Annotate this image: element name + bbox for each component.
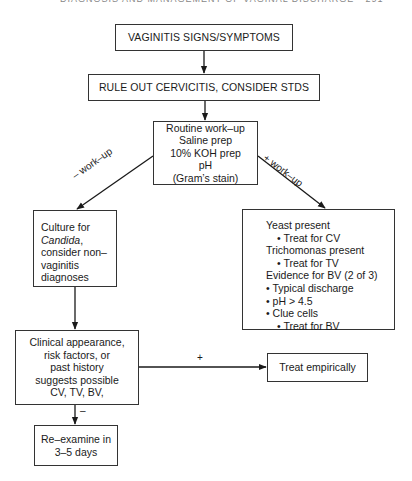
- clinical-line: past history: [50, 361, 104, 374]
- routine-line: pH: [199, 159, 212, 172]
- plus-label: +: [197, 352, 203, 363]
- routine-line: (Gram’s stain): [173, 172, 239, 185]
- node-vaginitis-signs: VAGINITIS SIGNS/SYMPTOMS: [115, 24, 293, 51]
- routine-line: Saline prep: [179, 134, 232, 147]
- culture-line: diagnoses: [41, 271, 116, 284]
- findings-line: Trichomonas present: [266, 244, 394, 257]
- treat-empirically-text: Treat empirically: [279, 361, 356, 374]
- findings-line: • Typical discharge: [266, 282, 394, 295]
- node-findings: Yeast present • Treat for CV Trichomonas…: [242, 209, 395, 330]
- clinical-line: suggests possible: [35, 374, 118, 387]
- findings-line: • Treat for BV: [266, 320, 394, 333]
- culture-line-candida: Candida,: [41, 234, 116, 247]
- culture-line: consider non–: [41, 246, 116, 259]
- reexamine-line: Re–examine in: [41, 433, 111, 446]
- reexamine-line: 3–5 days: [55, 446, 98, 459]
- node-treat-empirically: Treat empirically: [267, 353, 368, 382]
- node-rule-out-text: RULE OUT CERVICITIS, CONSIDER STDS: [99, 81, 309, 94]
- clinical-line: CV, TV, BV,: [50, 386, 104, 399]
- node-culture-candida: Culture for Candida, consider non– vagin…: [33, 210, 117, 287]
- node-routine-workup: Routine work–up Saline prep 10% KOH prep…: [153, 121, 258, 185]
- findings-line: • Treat for CV: [266, 232, 394, 245]
- routine-line: Routine work–up: [166, 122, 245, 135]
- routine-line: 10% KOH prep: [170, 147, 241, 160]
- node-reexamine: Re–examine in 3–5 days: [34, 425, 118, 466]
- node-rule-out-cervicitis: RULE OUT CERVICITIS, CONSIDER STDS: [88, 74, 320, 101]
- findings-line: • Treat for TV: [266, 257, 394, 270]
- node-clinical-appearance: Clinical appearance, risk factors, or pa…: [15, 330, 139, 405]
- findings-line: • Clue cells: [266, 307, 394, 320]
- clinical-line: risk factors, or: [44, 349, 110, 362]
- findings-line: • pH > 4.5: [266, 295, 394, 308]
- node-vaginitis-signs-text: VAGINITIS SIGNS/SYMPTOMS: [128, 31, 280, 44]
- findings-line: Evidence for BV (2 of 3): [266, 269, 394, 282]
- minus-label: –: [80, 405, 86, 416]
- findings-line: Yeast present: [266, 219, 394, 232]
- clinical-line: Clinical appearance,: [29, 336, 124, 349]
- culture-line: Culture for: [41, 221, 116, 234]
- culture-line: vaginitis: [41, 259, 116, 272]
